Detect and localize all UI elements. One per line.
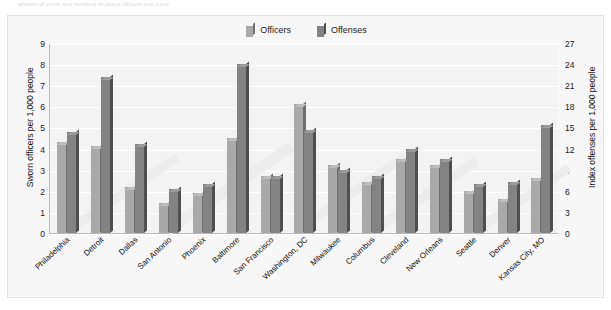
y-tick-label: 7 xyxy=(40,82,45,91)
bar-group xyxy=(219,44,253,233)
x-label-cell: Columbus xyxy=(354,236,388,298)
x-label-cell: Detroit xyxy=(83,236,117,298)
bar-swatch-icon xyxy=(317,24,326,37)
bar-officers[interactable] xyxy=(531,178,540,233)
bar-offenses[interactable] xyxy=(237,64,246,233)
bar-offenses[interactable] xyxy=(304,130,313,233)
x-label-cell: Milwaukee xyxy=(321,236,355,298)
x-tick-label: Denver xyxy=(488,236,512,259)
y-tick-label: 4 xyxy=(40,146,45,155)
x-tick-label: Seattle xyxy=(455,236,479,259)
bar-group xyxy=(389,44,423,233)
y2-tick-label: 27 xyxy=(565,40,574,49)
y2-tick-label: 15 xyxy=(565,124,574,133)
bar-officers[interactable] xyxy=(193,193,202,233)
x-label-cell: Seattle xyxy=(456,236,490,298)
y-tick-label: 5 xyxy=(40,124,45,133)
chart-page: amount of crime and numbers of police of… xyxy=(0,0,611,310)
plot-area xyxy=(49,44,558,234)
bar-offenses[interactable] xyxy=(541,125,550,233)
y-tick-label: 8 xyxy=(40,61,45,70)
legend-label-officers: Officers xyxy=(260,26,291,35)
y-tick-label: 3 xyxy=(40,167,45,176)
y-tick-label: 9 xyxy=(40,40,45,49)
x-label-cell: Kansas City, MO xyxy=(524,236,558,298)
bar-officers[interactable] xyxy=(430,165,439,233)
bar-offenses[interactable] xyxy=(338,170,347,233)
bar-group xyxy=(355,44,389,233)
bar-officers[interactable] xyxy=(261,176,270,233)
bar-offenses[interactable] xyxy=(440,159,449,233)
y-tick-label: 6 xyxy=(40,103,45,112)
x-tick-label: Detroit xyxy=(83,236,106,258)
bar-officers[interactable] xyxy=(294,104,303,233)
bar-officers[interactable] xyxy=(396,159,405,233)
bar-offenses[interactable] xyxy=(372,176,381,233)
y2-tick-label: 0 xyxy=(565,230,570,239)
bar-group xyxy=(118,44,152,233)
bar-offenses[interactable] xyxy=(406,149,415,233)
y2-tick-label: 24 xyxy=(565,61,574,70)
bar-offenses[interactable] xyxy=(508,182,517,233)
bar-offenses[interactable] xyxy=(203,184,212,233)
y2-tick-label: 18 xyxy=(565,103,574,112)
bar-group xyxy=(321,44,355,233)
x-label-cell: San Antonio xyxy=(151,236,185,298)
legend-item-officers[interactable]: Officers xyxy=(246,24,291,37)
bar-officers[interactable] xyxy=(57,142,66,233)
bar-officers[interactable] xyxy=(362,182,371,233)
bar-group xyxy=(422,44,456,233)
x-label-cell: Phoenix xyxy=(185,236,219,298)
bar-officers[interactable] xyxy=(125,187,134,233)
x-label-cell: Philadelphia xyxy=(49,236,83,298)
bar-officers[interactable] xyxy=(498,199,507,233)
x-tick-label: Philadelphia xyxy=(34,236,71,272)
bar-group xyxy=(524,44,558,233)
bar-group xyxy=(50,44,84,233)
bar-group xyxy=(185,44,219,233)
bar-group xyxy=(287,44,321,233)
y-tick-label: 2 xyxy=(40,188,45,197)
bar-group xyxy=(456,44,490,233)
bar-officers[interactable] xyxy=(91,146,100,233)
bar-offenses[interactable] xyxy=(67,132,76,233)
x-axis-category-labels: PhiladelphiaDetroitDallasSan AntonioPhoe… xyxy=(49,236,558,298)
x-tick-label: Phoenix xyxy=(181,236,208,262)
bar-offenses[interactable] xyxy=(474,184,483,233)
chart-card: Officers Offenses 9876543210 27242118151… xyxy=(7,15,604,298)
bar-group xyxy=(253,44,287,233)
x-tick-label: Dallas xyxy=(118,236,140,257)
bar-group xyxy=(84,44,118,233)
legend-label-offenses: Offenses xyxy=(331,26,367,35)
gridline xyxy=(50,234,558,235)
bar-officers[interactable] xyxy=(159,203,168,233)
cropped-caption-text: amount of crime and numbers of police of… xyxy=(18,1,268,8)
y-axis-left-title: Sworn officers per 1,000 people xyxy=(26,32,35,222)
y2-tick-label: 3 xyxy=(565,209,570,218)
y2-tick-label: 21 xyxy=(565,82,574,91)
bar-offenses[interactable] xyxy=(135,144,144,233)
x-label-cell: New Orleans xyxy=(422,236,456,298)
y-axis-right-title: Index offenses per 1,000 people xyxy=(588,32,597,222)
bar-offenses[interactable] xyxy=(271,176,280,233)
bar-officers[interactable] xyxy=(328,165,337,233)
bar-offenses[interactable] xyxy=(101,77,110,233)
bar-groups xyxy=(50,44,558,233)
y-tick-label: 1 xyxy=(40,209,45,218)
bar-officers[interactable] xyxy=(227,138,236,233)
chart-legend: Officers Offenses xyxy=(8,21,605,39)
y2-tick-label: 6 xyxy=(565,188,570,197)
bar-swatch-icon xyxy=(246,24,255,37)
bar-officers[interactable] xyxy=(464,191,473,233)
bar-group xyxy=(490,44,524,233)
bar-group xyxy=(152,44,186,233)
legend-item-offenses[interactable]: Offenses xyxy=(317,24,367,37)
y-tick-label: 0 xyxy=(40,230,45,239)
y2-tick-label: 9 xyxy=(565,167,570,176)
y2-tick-label: 12 xyxy=(565,146,574,155)
bar-offenses[interactable] xyxy=(169,189,178,233)
